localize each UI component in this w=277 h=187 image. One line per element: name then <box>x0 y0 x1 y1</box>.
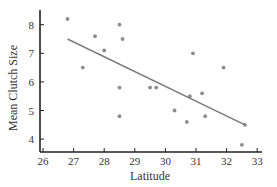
data-point <box>222 66 226 70</box>
data-point <box>118 23 122 27</box>
data-point <box>200 91 204 95</box>
y-tick-label: 4 <box>29 133 35 145</box>
data-point <box>81 66 85 70</box>
data-point <box>185 120 189 124</box>
y-tick-label: 5 <box>29 105 35 117</box>
y-axis-label: Mean Clutch Size <box>6 45 20 131</box>
x-tick-label: 31 <box>191 155 202 167</box>
regression-line <box>67 39 244 125</box>
scatter-chart: 2627282930313233 45678 Latitude Mean Clu… <box>0 0 277 187</box>
data-point <box>240 143 244 147</box>
y-tick-label: 7 <box>29 47 35 59</box>
x-axis-label: Latitude <box>130 169 170 183</box>
data-point <box>121 37 125 41</box>
y-tick-label: 8 <box>29 19 35 31</box>
y-tick-label: 6 <box>29 76 35 88</box>
x-tick-label: 27 <box>68 155 80 167</box>
data-point <box>102 49 106 53</box>
x-tick-label: 30 <box>160 155 172 167</box>
data-point <box>191 51 195 55</box>
data-point <box>66 17 70 21</box>
x-tick-label: 33 <box>252 155 264 167</box>
x-tick-label: 32 <box>221 155 232 167</box>
x-axis-ticks: 2627282930313233 <box>38 148 264 167</box>
data-point <box>148 86 152 90</box>
y-axis-ticks: 45678 <box>29 19 45 145</box>
data-point <box>173 109 177 113</box>
data-point <box>93 34 97 38</box>
data-point <box>154 86 158 90</box>
data-point <box>118 114 122 118</box>
x-tick-label: 26 <box>38 155 50 167</box>
x-tick-label: 29 <box>129 155 141 167</box>
x-tick-label: 28 <box>99 155 111 167</box>
data-point <box>203 114 207 118</box>
data-point <box>118 86 122 90</box>
